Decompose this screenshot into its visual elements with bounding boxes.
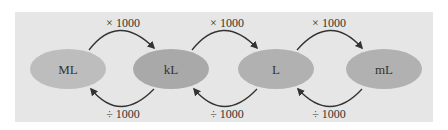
forward-op-label-1: × 1000 [106,16,140,30]
backward-arrow-2 [194,89,257,107]
forward-op-label-2: × 1000 [210,16,244,30]
forward-arrow-3 [297,30,362,50]
unit-conversion-diagram: ML kL L mL × 1000 × 1000 × 1000 ÷ 1000 ÷… [0,0,448,130]
forward-arrow-2 [192,30,257,50]
unit-label-ML: ML [58,62,78,77]
unit-label-mL: mL [375,62,393,77]
backward-arrow-1 [91,89,154,107]
backward-arrow-3 [298,89,362,107]
forward-arrow-1 [89,30,154,50]
backward-op-label-3: ÷ 1000 [312,107,346,121]
unit-label-L: L [272,62,280,77]
backward-op-label-1: ÷ 1000 [106,107,140,121]
forward-op-label-3: × 1000 [312,16,346,30]
unit-label-kL: kL [164,62,179,77]
backward-op-label-2: ÷ 1000 [210,107,244,121]
